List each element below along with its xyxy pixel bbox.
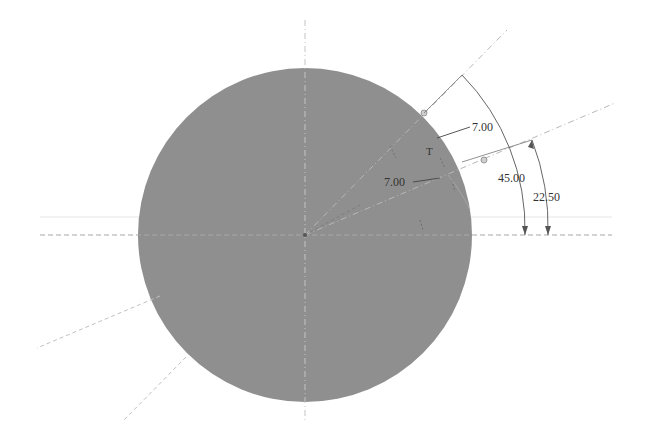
construction-line-lower-left-1[interactable] (37, 296, 160, 348)
angle-dimension-22-5[interactable]: 22.50 (533, 190, 560, 204)
radius-dimension-top[interactable]: 7.00 (472, 120, 493, 134)
extension-line-45 (424, 75, 462, 113)
tangent-constraint-label[interactable]: T (426, 145, 433, 157)
extension-line-22 (462, 140, 532, 162)
center-point[interactable] (303, 233, 307, 237)
arrowhead-icon (545, 226, 551, 235)
point-marker-22[interactable] (481, 157, 487, 163)
radius-dimension-inner[interactable]: 7.00 (384, 175, 405, 189)
angle-dimension-45[interactable]: 45.00 (498, 171, 525, 185)
arrowhead-icon (522, 226, 528, 235)
radius-leader-top (437, 127, 470, 138)
construction-line-lower-left-2[interactable] (124, 357, 186, 420)
angle-dimension-arc-22[interactable] (532, 140, 548, 235)
sketch-svg: 7.00 7.00 45.00 22.50 T (0, 0, 651, 432)
sketch-canvas[interactable]: 7.00 7.00 45.00 22.50 T (0, 0, 651, 432)
